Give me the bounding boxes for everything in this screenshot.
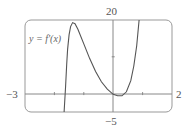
x-min-label: −3 (6, 89, 18, 100)
y-min-label: −5 (105, 116, 117, 127)
y-max-label: 20 (106, 6, 117, 17)
chart-canvas (0, 0, 188, 129)
function-label: y = f'(x) (29, 33, 61, 44)
x-max-label: 2 (176, 89, 182, 100)
function-curve (64, 20, 139, 112)
